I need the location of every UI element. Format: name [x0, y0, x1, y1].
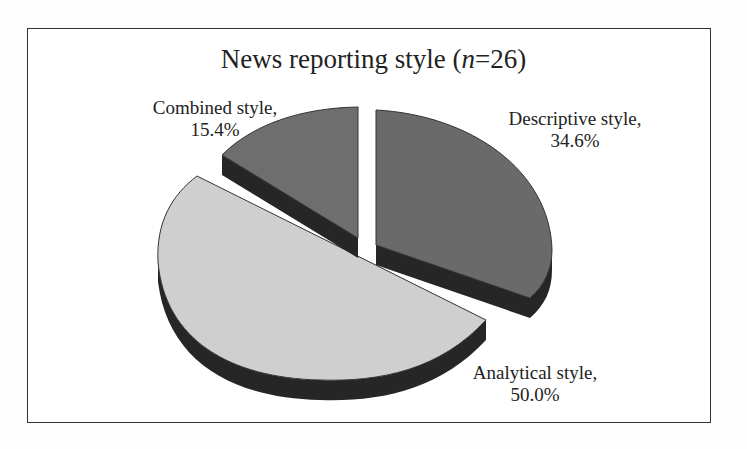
pie-chart	[0, 0, 747, 449]
label-descriptive: Descriptive style, 34.6%	[485, 108, 665, 152]
label-analytical: Analytical style, 50.0%	[450, 362, 620, 406]
label-combined: Combined style, 15.4%	[140, 97, 290, 141]
